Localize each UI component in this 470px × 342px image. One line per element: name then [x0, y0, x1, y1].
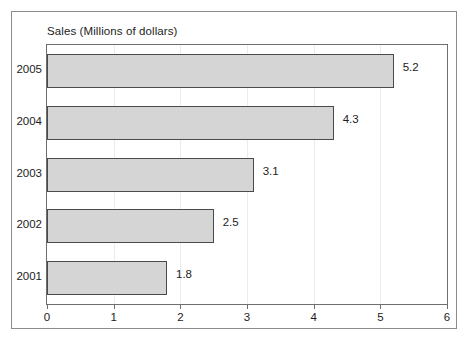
bar-row: 4.3 [47, 97, 447, 149]
x-tick-mark [47, 305, 48, 309]
bar-value-label: 1.8 [176, 268, 192, 280]
bar-value-label: 3.1 [263, 165, 279, 177]
category-label-2001: 2001 [2, 270, 42, 282]
plot-area: 5.24.33.12.51.8 [47, 45, 447, 304]
x-tick-label: 5 [370, 311, 390, 323]
x-tick-label: 4 [304, 311, 324, 323]
category-label-2005: 2005 [2, 63, 42, 75]
bar-2004[interactable] [47, 106, 334, 140]
bar-2001[interactable] [47, 261, 167, 295]
bar-value-label: 4.3 [343, 113, 359, 125]
category-label-2004: 2004 [2, 115, 42, 127]
bar-row: 5.2 [47, 45, 447, 97]
x-tick-label: 1 [104, 311, 124, 323]
bar-row: 2.5 [47, 200, 447, 252]
chart-title: Sales (Millions of dollars) [47, 25, 178, 37]
bar-2002[interactable] [47, 209, 214, 243]
bar-2005[interactable] [47, 54, 394, 88]
x-tick-mark [247, 305, 248, 309]
x-tick-label: 0 [37, 311, 57, 323]
x-tick-mark [180, 305, 181, 309]
x-tick-mark [314, 305, 315, 309]
x-tick-mark [114, 305, 115, 309]
bar-row: 1.8 [47, 252, 447, 304]
x-tick-mark [447, 305, 448, 309]
x-tick-label: 3 [237, 311, 257, 323]
bar-value-label: 5.2 [403, 61, 419, 73]
category-label-2003: 2003 [2, 167, 42, 179]
bar-row: 3.1 [47, 149, 447, 201]
plot-frame: 5.24.33.12.51.8 [46, 44, 448, 305]
bar-value-label: 2.5 [223, 216, 239, 228]
x-tick-label: 2 [170, 311, 190, 323]
x-axis: 0123456 [46, 305, 448, 333]
bar-chart-figure: Sales (Millions of dollars) 5.24.33.12.5… [0, 0, 470, 342]
x-tick-mark [380, 305, 381, 309]
x-tick-label: 6 [437, 311, 457, 323]
bar-2003[interactable] [47, 158, 254, 192]
category-label-2002: 2002 [2, 218, 42, 230]
